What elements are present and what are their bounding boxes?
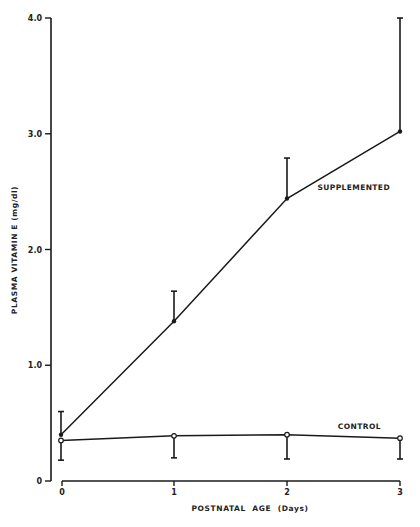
data-point-marker (285, 432, 290, 437)
data-point-marker (398, 436, 403, 441)
line-chart: 01.02.03.04.0 0123 SUPPLEMENTEDCONTROL P… (0, 0, 420, 527)
y-tick-label: 0 (36, 477, 42, 486)
x-tick-label: 1 (171, 488, 177, 497)
series-layer: SUPPLEMENTEDCONTROL (58, 18, 403, 460)
y-tick-label: 4.0 (28, 14, 43, 23)
x-tick-label: 2 (284, 488, 290, 497)
series-supplemented: SUPPLEMENTED (58, 18, 403, 437)
series-label-control: CONTROL (338, 422, 381, 431)
data-point-marker (398, 129, 402, 133)
x-axis: 0123 (59, 481, 403, 497)
x-tick-label: 0 (59, 488, 65, 497)
series-line (61, 131, 400, 434)
data-point-marker (285, 196, 289, 200)
data-point-marker (59, 433, 63, 437)
series-label-supplemented: SUPPLEMENTED (318, 183, 391, 192)
y-axis: 01.02.03.04.0 (28, 14, 51, 486)
y-tick-label: 2.0 (28, 246, 43, 255)
data-point-marker (59, 438, 64, 443)
y-tick-label: 1.0 (28, 361, 43, 370)
y-axis-title: PLASMA VITAMIN E (mg/dl) (10, 186, 19, 314)
y-tick-label: 3.0 (28, 130, 43, 139)
data-point-marker (172, 319, 176, 323)
x-axis-title: POSTNATAL AGE (Days) (192, 504, 309, 513)
series-line (61, 435, 400, 441)
x-tick-label: 3 (397, 488, 403, 497)
series-control: CONTROL (58, 422, 403, 460)
data-point-marker (172, 434, 177, 439)
